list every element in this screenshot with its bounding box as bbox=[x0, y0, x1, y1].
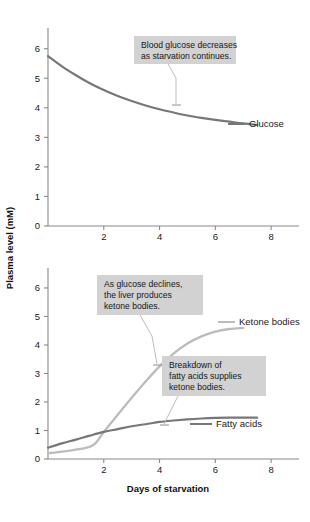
y-tick-label: 2 bbox=[35, 396, 40, 407]
y-tick-label: 6 bbox=[35, 43, 40, 54]
x-tick-label: 4 bbox=[157, 464, 162, 475]
series-label-fatty-acids: Fatty acids bbox=[216, 418, 262, 429]
callout-text-line: the liver produces bbox=[104, 290, 172, 300]
y-tick-label: 3 bbox=[35, 132, 40, 143]
y-tick-label: 1 bbox=[35, 191, 40, 202]
callout-text-line: as starvation continues. bbox=[141, 51, 231, 61]
y-tick-label: 5 bbox=[35, 311, 40, 322]
callout-text-line: Blood glucose decreases bbox=[141, 40, 237, 50]
y-tick-label: 6 bbox=[35, 282, 40, 293]
x-tick-label: 2 bbox=[101, 231, 106, 242]
x-tick-label: 4 bbox=[157, 231, 162, 242]
figure-container: 01234562468 Glucose Blood glucose decrea… bbox=[0, 0, 310, 522]
callout-text-line: ketone bodies. bbox=[169, 382, 225, 392]
x-tick-label: 6 bbox=[213, 464, 218, 475]
series-label-ketone-bodies: Ketone bodies bbox=[239, 316, 300, 327]
callout-text-line: ketone bodies. bbox=[104, 301, 160, 311]
x-tick-label: 6 bbox=[213, 231, 218, 242]
x-tick-label: 8 bbox=[268, 464, 273, 475]
starvation-plasma-figure: 01234562468 Glucose Blood glucose decrea… bbox=[0, 0, 310, 522]
callout-text-line: As glucose declines, bbox=[104, 279, 182, 289]
x-tick-label: 8 bbox=[268, 231, 273, 242]
y-tick-label: 3 bbox=[35, 368, 40, 379]
callout-text-line: Breakdown of bbox=[169, 360, 222, 370]
y-axis-title: Plasma level (mM) bbox=[4, 207, 15, 289]
y-tick-label: 0 bbox=[35, 453, 40, 464]
x-tick-label: 2 bbox=[101, 464, 106, 475]
series-label-glucose: Glucose bbox=[249, 118, 284, 129]
callout-text-line: fatty acids supplies bbox=[169, 371, 242, 381]
y-tick-label: 4 bbox=[35, 339, 40, 350]
y-tick-label: 1 bbox=[35, 425, 40, 436]
y-tick-label: 2 bbox=[35, 161, 40, 172]
x-axis-title: Days of starvation bbox=[127, 483, 210, 494]
y-tick-label: 5 bbox=[35, 73, 40, 84]
y-tick-label: 0 bbox=[35, 220, 40, 231]
y-tick-label: 4 bbox=[35, 102, 40, 113]
